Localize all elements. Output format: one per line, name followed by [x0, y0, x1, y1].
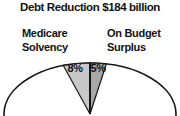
- debt-reduction-pie-chart: Debt Reduction $184 billion Medicare Sol…: [0, 0, 180, 116]
- medicare-slice-pct-label: 8%: [64, 62, 86, 74]
- surplus-slice-pct-label: 5%: [88, 62, 108, 74]
- pie-chart-svg: [0, 0, 180, 116]
